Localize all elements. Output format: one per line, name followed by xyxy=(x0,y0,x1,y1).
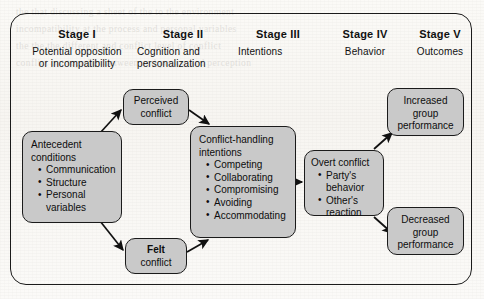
list-item: Personal xyxy=(38,189,121,202)
list-item: Avoiding xyxy=(206,197,295,210)
node-label-line1: Perceived xyxy=(124,95,188,108)
node-conflict-handling-intentions[interactable]: Conflict-handling intentions Competing C… xyxy=(190,126,296,238)
node-label-line1: Decreased xyxy=(388,214,463,227)
node-label-line2: conflict xyxy=(126,257,186,270)
stage-header-5: Stage V Outcomes xyxy=(405,28,475,58)
stage-subtitle: Intentions xyxy=(232,46,324,59)
node-perceived-conflict[interactable]: Perceived conflict xyxy=(123,89,189,125)
stage-header-1: Stage I Potential opposition or incompat… xyxy=(22,28,132,71)
list-item-wrap: variables xyxy=(31,202,121,215)
node-heading-line2: conditions xyxy=(31,152,121,165)
node-overt-conflict[interactable]: Overt conflict Party's behavior Other's … xyxy=(304,150,384,216)
stage-subtitle: Behavior xyxy=(324,46,406,59)
stage-subtitle: Outcomes xyxy=(405,46,475,59)
stage-title: Stage V xyxy=(405,28,475,41)
stage-title: Stage I xyxy=(22,28,132,41)
node-heading: Overt conflict xyxy=(311,157,383,170)
node-label-line1: Increased xyxy=(388,95,463,108)
list-item: Other's xyxy=(318,195,383,208)
stage-subtitle: Potential opposition or incompatibility xyxy=(22,46,132,71)
node-label-line1: Felt xyxy=(126,244,186,257)
node-heading-line1: Antecedent xyxy=(31,139,121,152)
stage-header-3: Stage III Intentions xyxy=(232,28,324,58)
stage-title: Stage II xyxy=(133,28,233,41)
node-label-line2: group xyxy=(388,108,463,121)
node-bullet-list: Party's xyxy=(311,170,383,183)
list-item-wrap: reaction xyxy=(311,207,383,220)
node-antecedent-conditions[interactable]: Antecedent conditions Communication Stru… xyxy=(22,131,122,223)
node-heading-line1: Conflict-handling xyxy=(199,134,295,147)
node-label-line3: performance xyxy=(388,120,463,133)
node-label-line2: group xyxy=(388,227,463,240)
node-heading-line2: intentions xyxy=(199,147,295,160)
list-item: Compromising xyxy=(206,184,295,197)
stage-subtitle: Cognition and personalization xyxy=(133,46,233,71)
node-decreased-group-performance[interactable]: Decreased group performance xyxy=(387,207,464,255)
list-item-wrap: behavior xyxy=(311,182,383,195)
node-felt-conflict[interactable]: Felt conflict xyxy=(125,238,187,274)
stage-header-2: Stage II Cognition and personalization xyxy=(133,28,233,71)
stage-title: Stage III xyxy=(232,28,324,41)
node-label-line2: conflict xyxy=(124,108,188,121)
list-item: Accommodating xyxy=(206,210,295,223)
list-item: Party's xyxy=(318,170,383,183)
stage-header-4: Stage IV Behavior xyxy=(324,28,406,58)
node-bullet-list: Competing Collaborating Compromising Avo… xyxy=(199,159,295,222)
list-item: Structure xyxy=(38,177,121,190)
node-increased-group-performance[interactable]: Increased group performance xyxy=(387,88,464,136)
node-bullet-list: Other's xyxy=(311,195,383,208)
list-item: Competing xyxy=(206,159,295,172)
list-item: Collaborating xyxy=(206,172,295,185)
list-item: Communication xyxy=(38,164,121,177)
node-bullet-list: Communication Structure Personal xyxy=(31,164,121,202)
stage-title: Stage IV xyxy=(324,28,406,41)
node-label-line3: performance xyxy=(388,239,463,252)
